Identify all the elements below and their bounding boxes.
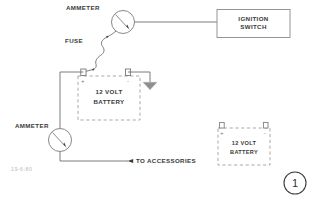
ignition-switch-label-line1: IGNITION xyxy=(217,15,290,23)
wire-negative-post-to-ground xyxy=(128,72,150,82)
fuse-label: FUSE xyxy=(65,37,83,45)
ignition-switch-label-line2: SWITCH xyxy=(217,23,290,31)
battery-main-negative-sign: - xyxy=(127,78,129,84)
ammeter-bottom-label: AMMETER xyxy=(15,122,49,130)
fuse-node-lower xyxy=(92,68,94,70)
ammeter-bottom-body xyxy=(49,129,72,152)
battery-secondary-positive-post xyxy=(220,122,225,128)
battery-main-positive-sign: + xyxy=(81,78,85,84)
to-accessories-label: TO ACCESSORIES xyxy=(136,157,196,165)
battery-secondary-label-line2: BATTERY xyxy=(218,148,270,156)
battery-main-label-line2: BATTERY xyxy=(78,98,140,106)
fuse-node-upper xyxy=(106,36,108,38)
ammeter-top-body xyxy=(112,11,135,34)
to-accessories-arrow-icon xyxy=(128,159,134,163)
battery-secondary-label-line1: 12 VOLT xyxy=(218,139,270,147)
ammeter-top-label: AMMETER xyxy=(66,4,100,12)
battery-secondary-positive-sign: + xyxy=(220,130,224,136)
figure-code: 19-6-80 xyxy=(11,165,32,173)
ground-icon xyxy=(143,82,156,89)
figure-number: 1 xyxy=(284,172,306,194)
fuse-wire xyxy=(86,31,116,71)
battery-secondary-negative-post xyxy=(263,122,268,128)
battery-secondary-negative-sign: - xyxy=(264,130,266,136)
wiring-diagram-figure: AMMETER FUSE AMMETER TO ACCESSORIES IGNI… xyxy=(0,0,312,201)
battery-main-label-line1: 12 VOLT xyxy=(78,88,140,96)
